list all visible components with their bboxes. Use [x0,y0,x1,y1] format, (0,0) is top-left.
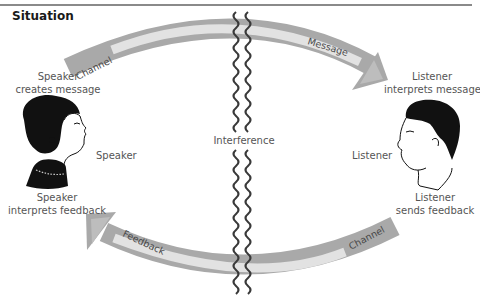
listener-interprets-line2: interprets message [384,83,480,96]
listener-feedback-line2: sends feedback [390,204,480,217]
communication-diagram: Channel Message Feedback Channel [0,0,480,300]
speaker-feedback-line1: Speaker [4,191,110,204]
listener-feedback-label: Listener sends feedback [390,191,480,217]
man-profile-icon [398,100,460,190]
speaker-creates-label: Speaker creates message [8,70,108,96]
listener-interprets-label: Listener interprets message [384,70,480,96]
speaker-feedback-label: Speaker interprets feedback [4,191,110,217]
listener-interprets-line1: Listener [384,70,480,83]
speaker-feedback-line2: interprets feedback [4,204,110,217]
woman-profile-icon [23,95,86,189]
interference-wave-icon [234,12,251,294]
top-arrow [68,28,388,90]
speaker-creates-line2: creates message [8,83,108,96]
speaker-name-label: Speaker [96,149,137,162]
speaker-creates-line1: Speaker [8,70,108,83]
interference-label: Interference [212,134,276,147]
listener-feedback-line1: Listener [390,191,480,204]
listener-name-label: Listener [352,149,392,162]
